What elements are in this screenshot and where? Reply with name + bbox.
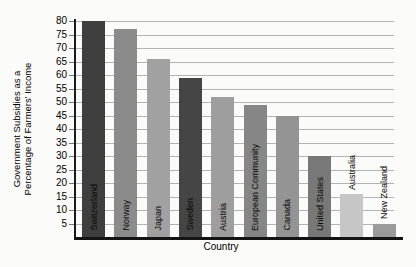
- bar-label-european-community: European Community: [250, 144, 260, 231]
- bar-switzerland: Switzerland: [82, 21, 105, 237]
- y-tick-label-5: 5: [36, 219, 67, 229]
- y-axis-title-line-2: Percentage of Farmers' Income: [22, 63, 33, 196]
- bar-canada: Canada: [276, 116, 299, 238]
- y-tick-label-65: 65: [36, 57, 67, 67]
- y-tick-label-80: 80: [36, 16, 67, 26]
- y-tick-label-20: 20: [36, 178, 67, 188]
- y-tick-label-30: 30: [36, 151, 67, 161]
- bar-sweden: Sweden: [179, 78, 202, 237]
- bar-chart: Government Subsidies as a Percentage of …: [0, 0, 416, 267]
- bar-label-united-states: United States: [315, 177, 325, 231]
- y-tick-label-75: 75: [36, 30, 67, 40]
- bar-label-new-zealand: New Zealand: [379, 166, 389, 219]
- bar-japan: Japan: [147, 59, 170, 237]
- y-tick-label-25: 25: [36, 165, 67, 175]
- gridline-80: [76, 21, 394, 22]
- y-tick-label-55: 55: [36, 84, 67, 94]
- y-tick-label-40: 40: [36, 124, 67, 134]
- y-axis-title-line-1: Government Subsidies as a: [11, 63, 22, 196]
- y-axis-line: [74, 19, 76, 240]
- y-tick-label-50: 50: [36, 97, 67, 107]
- bar-label-austria: Austria: [218, 203, 228, 231]
- y-tick-label-35: 35: [36, 138, 67, 148]
- y-tick-label-60: 60: [36, 70, 67, 80]
- bar-austria: Austria: [211, 97, 234, 237]
- bar-label-sweden: Sweden: [185, 198, 195, 231]
- bar-australia: Australia: [340, 194, 363, 237]
- bar-label-norway: Norway: [121, 200, 131, 231]
- x-axis-title: Country: [186, 241, 256, 252]
- bar-norway: Norway: [114, 29, 137, 237]
- y-axis-title: Government Subsidies as a Percentage of …: [11, 63, 33, 196]
- bar-united-states: United States: [308, 156, 331, 237]
- bar-label-canada: Canada: [282, 199, 292, 231]
- y-tick-label-10: 10: [36, 205, 67, 215]
- bar-label-japan: Japan: [153, 206, 163, 231]
- y-tick-label-70: 70: [36, 43, 67, 53]
- bar-new-zealand: New Zealand: [373, 224, 396, 238]
- bar-label-switzerland: Switzerland: [89, 184, 99, 231]
- y-tick-label-45: 45: [36, 111, 67, 121]
- x-axis-line: [74, 237, 403, 240]
- y-tick-label-15: 15: [36, 192, 67, 202]
- bar-label-australia: Australia: [347, 155, 357, 190]
- bar-european-community: European Community: [244, 105, 267, 237]
